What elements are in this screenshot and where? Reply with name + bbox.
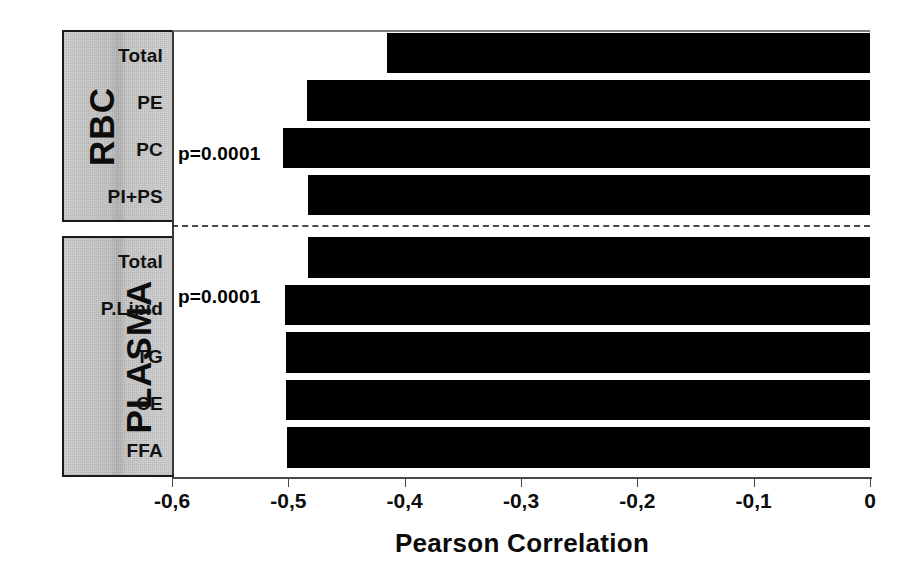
bar-rbc-pi-ps-row [172, 175, 870, 215]
group-block-rbc: RBC Total PE PC PI+PS [62, 30, 174, 222]
bar-plasma-tg [286, 332, 870, 373]
x-axis-line [172, 477, 872, 479]
category-label-rbc-pe: PE [64, 79, 172, 126]
bar-plasma-ffa [287, 427, 870, 468]
category-label-rbc-pc: PC [64, 126, 172, 173]
x-axis-tick-3 [521, 477, 522, 487]
bar-rbc-pi-ps [308, 175, 870, 215]
category-label-list-plasma: Total P.Lipid TG CE FFA [64, 238, 172, 475]
x-axis-tick-label-1: -0,5 [270, 489, 306, 513]
bar-rbc-total-row [172, 33, 870, 73]
bar-rbc-pe-row [172, 80, 870, 120]
plot-area [172, 30, 870, 475]
x-axis-tick-label-6: 0 [864, 489, 876, 513]
category-label-rbc-total: Total [64, 32, 172, 79]
x-axis-tick-label-0: -0,6 [154, 489, 190, 513]
pearson-correlation-bar-chart: RBC Total PE PC PI+PS PLASMA Total P.Lip… [0, 0, 904, 577]
x-axis-tick-6 [870, 477, 871, 487]
x-axis-title: Pearson Correlation [172, 528, 872, 559]
x-axis-tick-label-2: -0,4 [387, 489, 423, 513]
x-axis-tick-2 [405, 477, 406, 487]
bar-rbc-total [387, 33, 870, 73]
bar-rbc-pe [307, 80, 870, 120]
category-label-plasma-tg: TG [64, 333, 172, 380]
x-axis-tick-label-4: -0,2 [619, 489, 655, 513]
x-axis-tick-label-5: -0,1 [736, 489, 772, 513]
bar-plasma-ffa-row [172, 427, 870, 468]
x-axis-tick-4 [637, 477, 638, 487]
pvalue-annotation-plasma: p=0.0001 [178, 286, 260, 308]
category-label-plasma-p-lipid: P.Lipid [64, 285, 172, 332]
category-label-plasma-ffa: FFA [64, 428, 172, 475]
category-label-plasma-ce: CE [64, 380, 172, 427]
x-axis-tick-label-3: -0,3 [503, 489, 539, 513]
x-axis-tick-5 [754, 477, 755, 487]
bar-rbc-pc-row [172, 128, 870, 168]
bar-plasma-ce-row [172, 380, 870, 421]
pvalue-annotation-rbc: p=0.0001 [178, 143, 260, 165]
bar-plasma-tg-row [172, 332, 870, 373]
bar-plasma-ce [286, 380, 870, 421]
group-divider-line [172, 225, 870, 227]
group-block-plasma: PLASMA Total P.Lipid TG CE FFA [62, 236, 174, 477]
category-label-plasma-total: Total [64, 238, 172, 285]
bar-plasma-p-lipid [285, 285, 870, 326]
bar-plasma-p-lipid-row [172, 285, 870, 326]
bar-plasma-total-row [172, 237, 870, 278]
bar-rbc-pc [283, 128, 870, 168]
category-label-list-rbc: Total PE PC PI+PS [64, 32, 172, 220]
x-axis-tick-0 [172, 477, 173, 487]
category-label-rbc-pi-ps: PI+PS [64, 173, 172, 220]
bar-plasma-total [308, 237, 870, 278]
x-axis-tick-1 [288, 477, 289, 487]
